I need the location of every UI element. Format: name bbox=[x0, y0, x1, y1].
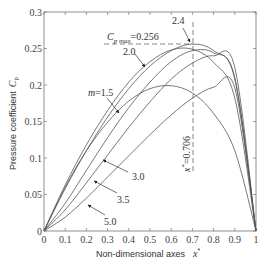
x-tick-label: 0.2 bbox=[80, 234, 93, 245]
pressure-coefficient-chart: 00.050.10.150.20.250.3 00.10.20.30.40.50… bbox=[0, 0, 263, 264]
y-tick-labels: 00.050.10.150.20.250.3 bbox=[25, 7, 43, 237]
plot-frame bbox=[44, 12, 256, 231]
label-3-5: 3.5 bbox=[117, 194, 130, 205]
x-tick-label: 0.8 bbox=[207, 234, 220, 245]
curve-m-5-0 bbox=[44, 77, 256, 231]
x-tick-label: 0.3 bbox=[101, 234, 114, 245]
y-tick-label: 0.3 bbox=[30, 7, 43, 18]
arrow-3-0 bbox=[103, 160, 128, 172]
arrow-2-4 bbox=[183, 28, 190, 42]
label-2-4: 2.4 bbox=[172, 15, 185, 26]
x-tick-label: 0.4 bbox=[123, 234, 136, 245]
y-tick-label: 0.1 bbox=[30, 153, 43, 164]
arrow-1-5 bbox=[107, 98, 119, 113]
cpmax-label: Cp max=0.256 bbox=[107, 31, 159, 45]
x-tick-label: 1 bbox=[254, 234, 259, 245]
x-tick-labels: 00.10.20.30.40.50.60.70.80.91 bbox=[42, 234, 259, 245]
curve-m-2-4 bbox=[44, 44, 256, 231]
arrow-5-0 bbox=[88, 205, 105, 215]
x-axis-title: Non-dimensional axesx* bbox=[96, 247, 201, 259]
curve-m-3-0 bbox=[44, 50, 256, 231]
curves bbox=[44, 44, 256, 231]
x-tick-label: 0.6 bbox=[165, 234, 178, 245]
y-axis-title: Pressure coefficientCp bbox=[7, 76, 19, 170]
xstar-label: x*=0.706 bbox=[180, 136, 192, 173]
x-tick-label: 0.5 bbox=[144, 234, 157, 245]
label-5-0: 5.0 bbox=[104, 216, 117, 227]
label-2-0: 2.0 bbox=[123, 46, 136, 57]
y-tick-label: 0.15 bbox=[25, 116, 43, 127]
y-tick-label: 0.2 bbox=[30, 80, 43, 91]
x-tick-label: 0.9 bbox=[229, 234, 242, 245]
x-tick-label: 0 bbox=[42, 234, 47, 245]
axis-ticks bbox=[44, 12, 256, 231]
curve-m-1-5 bbox=[44, 86, 256, 231]
x-tick-label: 0.7 bbox=[186, 234, 199, 245]
arrow-2-0 bbox=[135, 54, 145, 67]
y-tick-label: 0.25 bbox=[25, 43, 43, 54]
curve-m-2-0 bbox=[44, 48, 256, 231]
annotation-arrows bbox=[88, 28, 190, 215]
label-m-1-5: m=1.5 bbox=[88, 87, 113, 98]
label-3-0: 3.0 bbox=[132, 171, 145, 182]
y-tick-label: 0.05 bbox=[25, 189, 43, 200]
x-tick-label: 0.1 bbox=[59, 234, 72, 245]
